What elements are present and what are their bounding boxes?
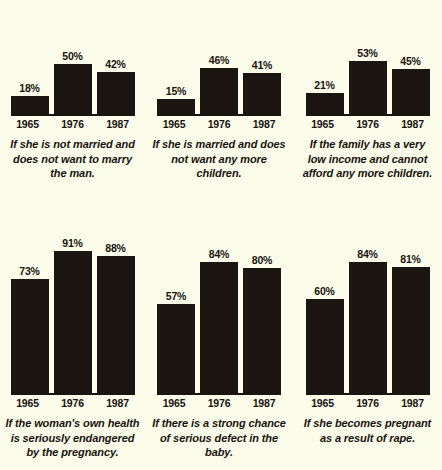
bar-item: 91% [54, 218, 92, 393]
bar [200, 262, 238, 393]
x-tick-label: 1987 [393, 397, 433, 409]
x-tick-label: 1965 [8, 397, 48, 409]
chart-panel-rape: 60% 84% 81% 1965 1976 1987 [293, 218, 442, 470]
bar-item: 57% [157, 218, 195, 393]
bar-value-label: 53% [357, 47, 377, 59]
x-tick-label: 1976 [53, 397, 93, 409]
bar [392, 267, 430, 393]
bar-group: 15% 46% 41% [157, 0, 281, 114]
bar-value-label: 18% [19, 82, 39, 94]
bar-value-label: 91% [62, 237, 82, 249]
x-tick-label: 1976 [348, 118, 388, 130]
x-axis-line [306, 114, 430, 116]
plot-area: 21% 53% 45% [306, 0, 430, 114]
bar-group: 60% 84% 81% [306, 218, 430, 393]
bar-item: 80% [243, 218, 281, 393]
bar-value-label: 15% [166, 85, 186, 97]
bar [54, 64, 92, 114]
bar-item: 81% [392, 218, 430, 393]
bar-value-label: 84% [357, 248, 377, 260]
x-tick-label: 1965 [8, 118, 48, 130]
chart-panel-married-no-more-children: 15% 46% 41% 1965 1976 1987 [145, 0, 293, 218]
x-axis-line [11, 114, 135, 116]
panel-caption: If there is a strong chance of serious d… [150, 416, 288, 460]
x-tick-label: 1976 [199, 397, 239, 409]
panel-caption: If she is married and does not want any … [152, 137, 286, 181]
x-tick-label: 1965 [154, 118, 194, 130]
bar-value-label: 45% [400, 55, 420, 67]
bar [157, 99, 195, 114]
bar-value-label: 80% [252, 254, 272, 266]
bar-item: 84% [349, 218, 387, 393]
bar-value-label: 84% [209, 248, 229, 260]
bar-item: 46% [200, 0, 238, 114]
panel-caption: If she is not married and does not want … [6, 137, 140, 181]
bar [306, 299, 344, 393]
x-tick-label: 1976 [348, 397, 388, 409]
plot-area: 73% 91% 88% [11, 218, 135, 393]
bar-item: 84% [200, 218, 238, 393]
bar-group: 21% 53% 45% [306, 0, 430, 114]
bar [243, 268, 281, 393]
x-axis-line [157, 393, 281, 395]
bar-item: 18% [11, 0, 49, 114]
chart-panel-health-endangered: 73% 91% 88% 1965 1976 1987 [0, 218, 145, 470]
x-axis-line [306, 393, 430, 395]
x-axis-tick-labels: 1965 1976 1987 [303, 118, 433, 130]
x-axis-tick-labels: 1965 1976 1987 [8, 118, 138, 130]
bar [97, 72, 135, 114]
chart-panel-low-income: 21% 53% 45% 1965 1976 1987 [293, 0, 442, 218]
x-axis-tick-labels: 1965 1976 1987 [154, 397, 284, 409]
x-tick-label: 1965 [303, 118, 343, 130]
bar-item: 73% [11, 218, 49, 393]
bar-group: 73% 91% 88% [11, 218, 135, 393]
bar-value-label: 46% [209, 54, 229, 66]
chart-panel-serious-defect: 57% 84% 80% 1965 1976 1987 [145, 218, 293, 470]
bar [392, 69, 430, 114]
x-tick-label: 1987 [98, 397, 138, 409]
x-axis-tick-labels: 1965 1976 1987 [303, 397, 433, 409]
bar-item: 41% [243, 0, 281, 114]
bar-value-label: 81% [400, 253, 420, 265]
x-tick-label: 1987 [98, 118, 138, 130]
x-axis-tick-labels: 1965 1976 1987 [154, 118, 284, 130]
bar-item: 60% [306, 218, 344, 393]
x-axis-line [11, 393, 135, 395]
bar [349, 262, 387, 393]
bar-value-label: 57% [166, 290, 186, 302]
bar-value-label: 42% [105, 58, 125, 70]
chart-panel-not-married: 18% 50% 42% 1965 1976 1987 [0, 0, 145, 218]
bar [97, 256, 135, 393]
x-tick-label: 1976 [199, 118, 239, 130]
panel-grid: 18% 50% 42% 1965 1976 1987 [0, 0, 442, 470]
bar [200, 68, 238, 114]
bar-item: 53% [349, 0, 387, 114]
plot-area: 15% 46% 41% [157, 0, 281, 114]
bar [11, 96, 49, 114]
bar-item: 88% [97, 218, 135, 393]
bar-chart-figure: 18% 50% 42% 1965 1976 1987 [0, 0, 442, 470]
bar-value-label: 88% [105, 242, 125, 254]
bar [11, 279, 49, 393]
x-tick-label: 1987 [244, 397, 284, 409]
bar-item: 50% [54, 0, 92, 114]
bar-item: 42% [97, 0, 135, 114]
bar-item: 15% [157, 0, 195, 114]
x-axis-line [157, 114, 281, 116]
x-tick-label: 1965 [303, 397, 343, 409]
plot-area: 60% 84% 81% [306, 218, 430, 393]
panel-caption: If the woman's own health is seriously e… [4, 416, 142, 460]
x-tick-label: 1987 [393, 118, 433, 130]
plot-area: 57% 84% 80% [157, 218, 281, 393]
bar-value-label: 21% [314, 79, 334, 91]
bar-value-label: 60% [314, 285, 334, 297]
bar-value-label: 41% [252, 59, 272, 71]
bar-item: 45% [392, 0, 430, 114]
bar-value-label: 50% [62, 50, 82, 62]
x-tick-label: 1965 [154, 397, 194, 409]
bar-item: 21% [306, 0, 344, 114]
bar-group: 57% 84% 80% [157, 218, 281, 393]
bar [306, 93, 344, 114]
bar [349, 61, 387, 114]
x-axis-tick-labels: 1965 1976 1987 [8, 397, 138, 409]
